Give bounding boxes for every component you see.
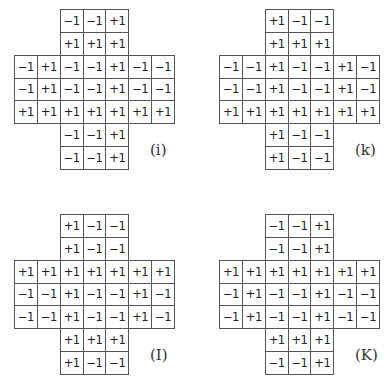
grid-cell: −1 bbox=[37, 283, 61, 307]
grid-cell: +1 bbox=[333, 100, 357, 124]
grid-cell: −1 bbox=[83, 146, 107, 170]
grid-cell: −1 bbox=[83, 351, 107, 375]
grid-cell: +1 bbox=[288, 260, 312, 284]
panel-k: (k) +1−1−1+1+1+1−1−1+1−1−1+1−1−1−1+1−1−1… bbox=[219, 9, 380, 170]
grid-cell: +1 bbox=[37, 78, 61, 102]
grid-cell: +1 bbox=[265, 123, 289, 147]
grid-cell: +1 bbox=[310, 283, 334, 307]
grid-cell: −1 bbox=[219, 283, 243, 307]
grid-cell: +1 bbox=[265, 100, 289, 124]
grid-cell: −1 bbox=[128, 55, 152, 79]
panel-label: (i) bbox=[150, 141, 167, 159]
grid-cell: +1 bbox=[105, 123, 129, 147]
grid-cell: −1 bbox=[242, 55, 266, 79]
grid-cell: −1 bbox=[356, 283, 380, 307]
grid-cell: +1 bbox=[105, 328, 129, 352]
grid-cell: +1 bbox=[242, 100, 266, 124]
grid-cell: +1 bbox=[219, 100, 243, 124]
grid-cell: −1 bbox=[265, 305, 289, 329]
grid-cell: +1 bbox=[60, 214, 84, 238]
grid-cell: −1 bbox=[83, 305, 107, 329]
grid-cell: +1 bbox=[60, 351, 84, 375]
grid-cell: −1 bbox=[333, 305, 357, 329]
grid-cell: +1 bbox=[37, 55, 61, 79]
panel-K: (K) −1−1+1−1−1+1+1+1+1+1+1+1+1−1+1−1−1+1… bbox=[219, 214, 380, 375]
grid-cell: −1 bbox=[83, 123, 107, 147]
grid-cell: +1 bbox=[128, 305, 152, 329]
grid-cell: −1 bbox=[288, 237, 312, 261]
grid-cell: +1 bbox=[151, 100, 175, 124]
grid-cell: +1 bbox=[83, 100, 107, 124]
grid-cell: +1 bbox=[219, 260, 243, 284]
grid-cell: −1 bbox=[333, 283, 357, 307]
grid-cell: +1 bbox=[265, 55, 289, 79]
grid-cell: −1 bbox=[83, 283, 107, 307]
grid-cell: −1 bbox=[83, 55, 107, 79]
grid-cell: −1 bbox=[83, 9, 107, 33]
grid-cell: +1 bbox=[37, 260, 61, 284]
grid-cell: −1 bbox=[60, 78, 84, 102]
grid-cell: +1 bbox=[105, 32, 129, 56]
grid-cell: −1 bbox=[288, 55, 312, 79]
grid-cell: −1 bbox=[105, 351, 129, 375]
grid-cell: +1 bbox=[105, 146, 129, 170]
grid-cell: +1 bbox=[83, 32, 107, 56]
grid-cell: +1 bbox=[128, 283, 152, 307]
grid-cell: +1 bbox=[60, 305, 84, 329]
grid-cell: +1 bbox=[105, 78, 129, 102]
grid-cell: −1 bbox=[242, 78, 266, 102]
grid-cell: +1 bbox=[265, 78, 289, 102]
grid-cell: +1 bbox=[151, 260, 175, 284]
grid-cell: −1 bbox=[310, 146, 334, 170]
panel-I: (I) +1−1−1+1−1−1+1+1+1+1+1+1+1−1−1+1−1−1… bbox=[14, 214, 175, 375]
grid-cell: −1 bbox=[288, 9, 312, 33]
grid-cell: +1 bbox=[265, 32, 289, 56]
grid-cell: +1 bbox=[310, 214, 334, 238]
grid-cell: −1 bbox=[151, 55, 175, 79]
grid-cell: −1 bbox=[105, 237, 129, 261]
grid-cell: −1 bbox=[60, 9, 84, 33]
grid-cell: +1 bbox=[83, 328, 107, 352]
grid-cell: −1 bbox=[105, 305, 129, 329]
grid-cell: −1 bbox=[288, 305, 312, 329]
grid-cell: +1 bbox=[310, 32, 334, 56]
grid-cell: −1 bbox=[219, 78, 243, 102]
grid-cell: +1 bbox=[310, 305, 334, 329]
grid-cell: −1 bbox=[310, 123, 334, 147]
grid-cell: +1 bbox=[310, 260, 334, 284]
grid-cell: +1 bbox=[265, 328, 289, 352]
grid-cell: −1 bbox=[60, 146, 84, 170]
grid-cell: −1 bbox=[265, 283, 289, 307]
grid-cell: +1 bbox=[288, 100, 312, 124]
grid-cell: +1 bbox=[105, 260, 129, 284]
grid-cell: −1 bbox=[105, 283, 129, 307]
grid-cell: −1 bbox=[288, 283, 312, 307]
grid-cell: −1 bbox=[265, 237, 289, 261]
grid-cell: +1 bbox=[37, 100, 61, 124]
grid-cell: −1 bbox=[14, 55, 38, 79]
grid-cell: −1 bbox=[265, 214, 289, 238]
grid-cell: −1 bbox=[60, 55, 84, 79]
grid-cell: +1 bbox=[60, 237, 84, 261]
grid-cell: −1 bbox=[151, 78, 175, 102]
grid-cell: +1 bbox=[310, 100, 334, 124]
grid-cell: −1 bbox=[310, 9, 334, 33]
grid-cell: −1 bbox=[83, 237, 107, 261]
grid-cell: +1 bbox=[333, 260, 357, 284]
grid-cell: +1 bbox=[265, 146, 289, 170]
grid-cell: +1 bbox=[356, 260, 380, 284]
grid-cell: +1 bbox=[333, 78, 357, 102]
grid-cell: +1 bbox=[60, 328, 84, 352]
grid-cell: −1 bbox=[356, 55, 380, 79]
grid-cell: +1 bbox=[14, 100, 38, 124]
grid-cell: −1 bbox=[14, 305, 38, 329]
grid-cell: −1 bbox=[356, 78, 380, 102]
grid-cell: +1 bbox=[310, 351, 334, 375]
grid-cell: −1 bbox=[288, 146, 312, 170]
grid-cell: +1 bbox=[288, 328, 312, 352]
grid-cell: +1 bbox=[356, 100, 380, 124]
grid-cell: +1 bbox=[265, 260, 289, 284]
grid-cell: −1 bbox=[60, 123, 84, 147]
grid-cell: −1 bbox=[128, 78, 152, 102]
grid-cell: −1 bbox=[83, 214, 107, 238]
